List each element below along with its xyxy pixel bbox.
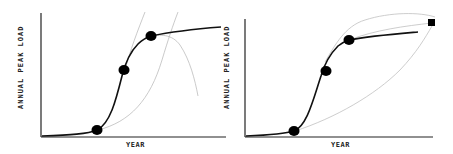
marker-dot-mid [321,66,332,76]
x-axis-label: YEAR [331,141,350,149]
main-s-curve [42,27,221,136]
marker-dot-mid [119,65,130,75]
marker-dot-low [92,125,103,135]
marker-square-end [428,19,435,26]
gray-peaked-curve [150,35,198,96]
x-axis-label: YEAR [126,141,145,149]
main-s-curve [246,32,418,136]
y-axis-label: ANNUAL PEAK LOAD [223,39,231,109]
right-chart-panel: ANNUAL PEAK LOAD YEAR [225,0,453,154]
gray-steep-curve [124,12,145,74]
gray-upper-envelope [325,14,435,62]
marker-dot-high [146,31,157,41]
marker-dot-low [289,126,300,136]
y-axis-label: ANNUAL PEAK LOAD [17,39,25,109]
right-chart-plot [225,0,453,154]
marker-dot-high [344,35,355,45]
gray-lower-curve [295,26,432,131]
left-chart-plot [0,0,228,154]
left-chart-panel: ANNUAL PEAK LOAD YEAR [0,0,228,154]
